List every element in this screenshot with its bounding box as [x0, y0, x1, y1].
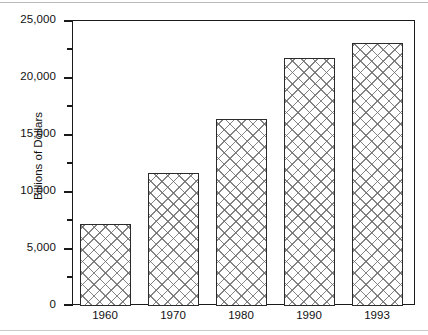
scan-artifact-top-line	[0, 2, 428, 3]
y-tick-label-10000: 10,000	[0, 185, 56, 197]
y-tick-label-0: 0	[0, 299, 56, 311]
plot-area	[72, 20, 415, 305]
y-tick-label-5000: 5,000	[0, 242, 56, 254]
x-tick-label-1980: 1980	[206, 310, 276, 322]
y-tick-label-20000: 20,000	[0, 71, 56, 83]
bar-1970	[148, 173, 199, 306]
bar-1990	[284, 58, 335, 306]
x-tick-label-1993: 1993	[342, 310, 412, 322]
y-tick-label-15000: 15,000	[0, 128, 56, 140]
bar-1980	[216, 119, 267, 306]
y-tick-label-25000: 25,000	[0, 14, 56, 26]
scan-artifact-bottom-line	[0, 330, 428, 331]
x-tick-label-1970: 1970	[138, 310, 208, 322]
bar-1993	[352, 43, 403, 306]
chart-page: Billions of Dollars 25,000 20,000 15,000…	[0, 0, 428, 335]
y-axis-title: Billions of Dollars	[32, 56, 44, 256]
x-tick-label-1990: 1990	[274, 310, 344, 322]
x-tick-label-1960: 1960	[70, 310, 140, 322]
bar-1960	[80, 224, 131, 306]
